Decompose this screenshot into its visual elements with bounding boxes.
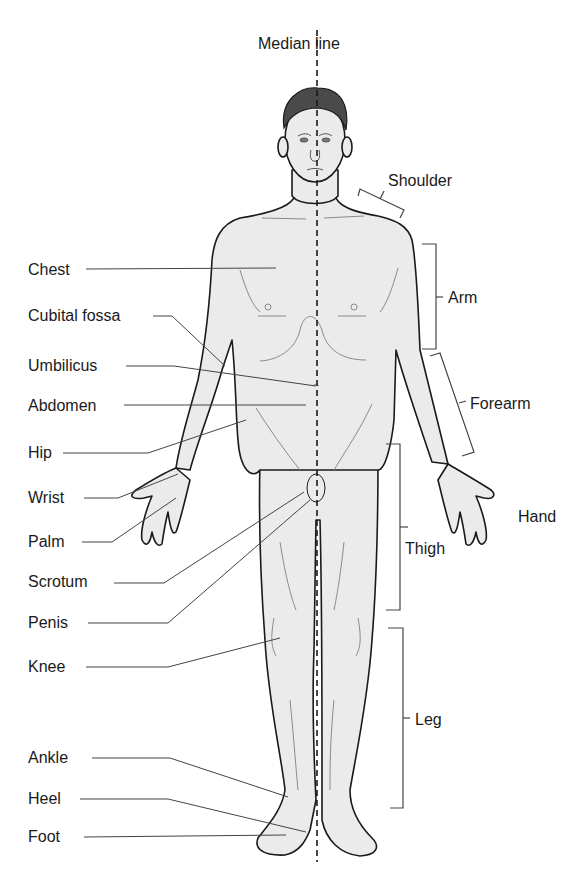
label-wrist: Wrist bbox=[28, 490, 64, 506]
arm-bracket bbox=[422, 244, 436, 349]
label-knee: Knee bbox=[28, 659, 65, 675]
label-shoulder: Shoulder bbox=[388, 173, 452, 189]
label-hip: Hip bbox=[28, 445, 52, 461]
label-foot: Foot bbox=[28, 829, 60, 845]
label-arm: Arm bbox=[448, 290, 477, 306]
label-heel: Heel bbox=[28, 791, 61, 807]
label-forearm: Forearm bbox=[470, 396, 530, 412]
label-umbilicus: Umbilicus bbox=[28, 358, 97, 374]
label-penis: Penis bbox=[28, 615, 68, 631]
leg-bracket bbox=[388, 628, 403, 808]
label-abdomen: Abdomen bbox=[28, 398, 97, 414]
label-hand: Hand bbox=[518, 509, 556, 525]
label-scrotum: Scrotum bbox=[28, 574, 88, 590]
body-figure bbox=[0, 0, 588, 885]
label-chest: Chest bbox=[28, 262, 70, 278]
label-ankle: Ankle bbox=[28, 750, 68, 766]
label-cubital-fossa: Cubital fossa bbox=[28, 308, 121, 324]
anatomy-diagram: Median line Chest Cubital fossa Umbilicu… bbox=[0, 0, 588, 885]
thigh-bracket bbox=[386, 444, 400, 610]
label-thigh: Thigh bbox=[405, 541, 445, 557]
label-leg: Leg bbox=[415, 712, 442, 728]
label-palm: Palm bbox=[28, 534, 64, 550]
median-line-label: Median line bbox=[258, 36, 340, 52]
